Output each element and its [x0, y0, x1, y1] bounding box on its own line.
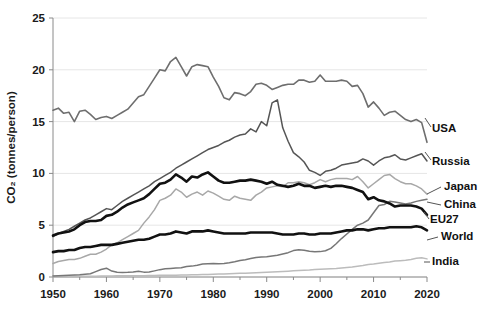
series-label-russia: Russia	[432, 155, 470, 167]
series-label-india: India	[432, 255, 459, 267]
x-tick-label-2000: 2000	[307, 288, 333, 300]
x-tick-label-1990: 1990	[254, 288, 280, 300]
x-tick-label-2020: 2020	[414, 288, 440, 300]
series-label-eu27: EU27	[430, 213, 459, 225]
x-tick-label-1960: 1960	[94, 288, 120, 300]
series-label-china: China	[444, 198, 477, 210]
series-label-usa: USA	[432, 122, 456, 134]
leader-line-japan	[427, 187, 441, 194]
y-tick-label-20: 20	[32, 64, 45, 76]
x-tick-label-1950: 1950	[40, 288, 66, 300]
x-tick-label-2010: 2010	[361, 288, 387, 300]
leader-line-world	[427, 237, 438, 240]
y-tick-label-5: 5	[39, 219, 46, 231]
series-line-eu27	[53, 172, 427, 235]
leader-line-usa	[425, 118, 431, 127]
series-label-japan: Japan	[444, 180, 477, 192]
x-tick-label-1980: 1980	[200, 288, 226, 300]
chart-root: 0510152025195019601970198019902000201020…	[0, 0, 496, 310]
co2-per-capita-line-chart: 0510152025195019601970198019902000201020…	[0, 0, 496, 310]
y-axis-title: CO₂ (tonnes/person)	[5, 91, 17, 204]
y-tick-label-25: 25	[32, 12, 45, 24]
y-tick-label-10: 10	[32, 167, 45, 179]
series-label-world: World	[441, 230, 473, 242]
series-line-world	[53, 226, 427, 252]
leader-line-china	[427, 202, 441, 205]
y-tick-label-15: 15	[32, 116, 45, 128]
x-tick-label-1970: 1970	[147, 288, 173, 300]
series-line-japan	[53, 174, 427, 263]
y-tick-label-0: 0	[39, 271, 45, 283]
